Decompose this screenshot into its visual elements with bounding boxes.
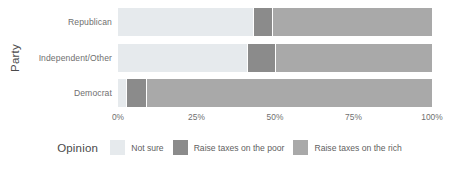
x-tick-label-0: 0% <box>112 112 124 122</box>
bar-row <box>118 44 432 72</box>
bar-row <box>118 8 432 36</box>
bar-row <box>118 79 432 107</box>
y-axis-title-label: Party <box>9 44 21 72</box>
bar-segment-not-sure[interactable] <box>118 44 247 72</box>
y-axis-tick-labels: Republican Independent/Other Democrat <box>24 0 112 115</box>
x-tick-label-100: 100% <box>421 112 442 122</box>
legend-label-raise-taxes-rich: Raise taxes on the rich <box>314 143 401 153</box>
bar-segment-raise-taxes-poor[interactable] <box>247 44 275 72</box>
y-tick-label-democrat: Democrat <box>26 88 112 98</box>
bar-track-republican <box>118 8 432 36</box>
legend-item-not-sure[interactable]: Not sure <box>110 140 163 155</box>
legend-label-raise-taxes-poor: Raise taxes on the poor <box>194 143 285 153</box>
bar-segment-not-sure[interactable] <box>118 79 126 107</box>
y-tick-label-independent-other: Independent/Other <box>26 53 112 63</box>
legend-title: Opinion <box>57 142 98 154</box>
x-tick-label-50: 50% <box>267 112 284 122</box>
legend: Opinion Not sure Raise taxes on the poor… <box>0 140 459 155</box>
legend-item-raise-taxes-poor[interactable]: Raise taxes on the poor <box>173 140 285 155</box>
bar-track-democrat <box>118 79 432 107</box>
y-axis-title: Party <box>6 0 24 115</box>
y-tick-label-republican: Republican <box>26 17 112 27</box>
x-axis-tick-labels: 0% 25% 50% 75% 100% <box>118 112 432 128</box>
legend-swatch-raise-taxes-poor <box>173 140 188 155</box>
bar-segment-not-sure[interactable] <box>118 8 253 36</box>
legend-item-raise-taxes-rich[interactable]: Raise taxes on the rich <box>293 140 401 155</box>
legend-label-not-sure: Not sure <box>131 143 163 153</box>
bar-segment-raise-taxes-rich[interactable] <box>272 8 432 36</box>
legend-swatch-not-sure <box>110 140 125 155</box>
bar-segment-raise-taxes-rich[interactable] <box>146 79 432 107</box>
bar-segment-raise-taxes-poor[interactable] <box>126 79 146 107</box>
x-tick-label-25: 25% <box>188 112 205 122</box>
stacked-bar-chart: Party Republican Independent/Other Democ… <box>0 0 459 170</box>
plot-area <box>118 0 432 115</box>
x-tick-label-75: 75% <box>345 112 362 122</box>
bar-track-independent-other <box>118 44 432 72</box>
bar-segment-raise-taxes-rich[interactable] <box>275 44 432 72</box>
bar-segment-raise-taxes-poor[interactable] <box>253 8 272 36</box>
legend-swatch-raise-taxes-rich <box>293 140 308 155</box>
